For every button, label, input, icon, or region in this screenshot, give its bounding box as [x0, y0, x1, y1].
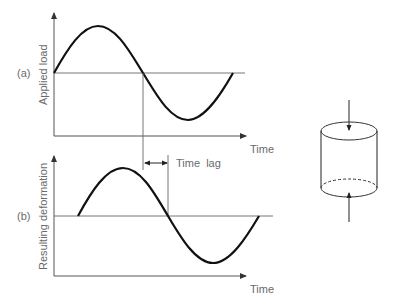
panel-a-y-label: Applied load — [37, 44, 49, 105]
time-lag-label: Time lag — [176, 157, 221, 169]
cylinder-bottom-hidden-arc — [321, 179, 377, 188]
resulting-deformation-sine-curve — [78, 168, 259, 263]
diagram-canvas: (a) Applied load Time Time lag (b) Resul… — [0, 0, 393, 307]
compressed-cylinder-specimen — [321, 100, 377, 222]
panel-b-tag: (b) — [17, 210, 30, 222]
panel-b-y-label: Resulting deformation — [37, 163, 49, 270]
panel-b-x-label: Time — [250, 283, 274, 295]
panel-b-resulting-deformation: (b) Resulting deformation Time — [17, 156, 274, 295]
panel-a-applied-load: (a) Applied load Time — [17, 13, 274, 155]
panel-a-x-label: Time — [250, 143, 274, 155]
panel-a-tag: (a) — [17, 67, 30, 79]
